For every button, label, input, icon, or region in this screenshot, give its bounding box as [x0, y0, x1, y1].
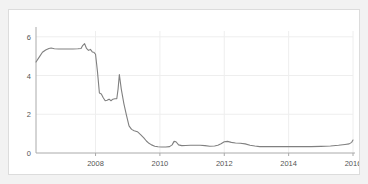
x-tick-label: 2008	[87, 159, 104, 168]
x-tick-label: 2016	[345, 159, 359, 168]
x-tick-label: 2010	[152, 159, 169, 168]
x-tick-label: 2014	[280, 159, 297, 168]
y-tick-label: 0	[27, 149, 31, 158]
y-tick-label: 4	[27, 72, 31, 81]
y-tick-label: 2	[27, 110, 31, 119]
y-tick-label: 6	[27, 33, 31, 42]
line-chart: 024620082010201220142016	[9, 10, 359, 174]
series-line-rate	[36, 44, 353, 147]
x-tick-label: 2012	[216, 159, 233, 168]
chart-page: 024620082010201220142016	[0, 0, 368, 184]
chart-card: 024620082010201220142016	[8, 9, 360, 175]
